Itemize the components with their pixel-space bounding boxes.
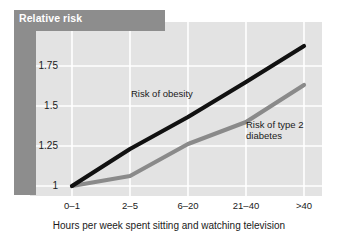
series-label-diabetes-line1: Risk of type 2 (246, 119, 304, 130)
series-label-obesity: Risk of obesity (131, 88, 193, 99)
plot-area (30, 22, 322, 196)
x-tick-label-2-5: 2–5 (102, 200, 158, 211)
y-tick-label-175: 1.75 (20, 60, 58, 71)
x-axis-label: Hours per week spent sitting and watchin… (0, 220, 338, 231)
x-tick-label-6-20: 6–20 (160, 200, 216, 211)
y-tick-label-100: 1 (20, 180, 58, 191)
y-tick-label-150: 1.5 (20, 100, 58, 111)
plot-svg (30, 22, 322, 196)
y-tick-label-125: 1.25 (20, 140, 58, 151)
x-tick-label-21-40: 21–40 (218, 200, 274, 211)
panel-background (30, 22, 322, 196)
page-title: Relative risk (19, 12, 82, 24)
series-label-diabetes: Risk of type 2 diabetes (246, 119, 304, 141)
series-label-diabetes-line2: diabetes (246, 130, 282, 141)
x-tick-label-0-1: 0–1 (44, 200, 100, 211)
relative-risk-chart-figure: Relative risk 1.75 1.5 1.25 1 0–1 2–5 6–… (0, 0, 338, 241)
x-tick-label-over-40: >40 (276, 200, 332, 211)
